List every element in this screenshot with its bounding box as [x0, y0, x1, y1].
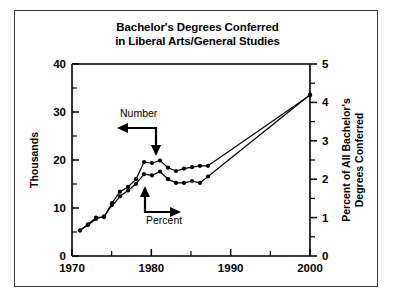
- annotation-number-left-arrow-icon: [117, 123, 128, 133]
- left-tick-label-20: 20: [53, 154, 66, 166]
- annotation-percent-label: Percent: [146, 214, 182, 226]
- x-axis-ticks: [72, 249, 310, 256]
- series-number-markers: [78, 93, 312, 233]
- series-percent-markers: [78, 93, 312, 233]
- x-tick-label-1990: 1990: [218, 262, 244, 274]
- left-tick-label-40: 40: [53, 58, 66, 70]
- annotation-number-down-arrow-icon: [151, 145, 161, 156]
- y-axis-title: Thousands: [28, 132, 40, 188]
- left-tick-label-0: 0: [60, 250, 66, 262]
- right-tick-label-0: 0: [322, 250, 328, 262]
- right-tick-label-2: 2: [322, 173, 328, 185]
- chart-plot-svg: 0 10 20 30 40 0 1 2 3 4 5: [0, 0, 395, 303]
- right-axis-tick-labels: 0 1 2 3 4 5: [322, 58, 329, 262]
- x-tick-label-2000: 2000: [297, 262, 323, 274]
- right-tick-label-1: 1: [322, 212, 329, 224]
- chart-figure: Bachelor's Degrees Conferred in Liberal …: [0, 0, 395, 303]
- left-axis-ticks: [72, 64, 79, 256]
- annotation-number: Number: [117, 107, 161, 156]
- annotation-number-connector: [126, 128, 156, 147]
- y2-axis-title-line-1: Percent of All Bachelor's: [340, 98, 352, 222]
- series-percent-line: [80, 95, 310, 231]
- left-tick-label-10: 10: [53, 202, 66, 214]
- right-tick-label-5: 5: [322, 58, 329, 70]
- annotation-number-label: Number: [120, 107, 158, 119]
- right-tick-label-4: 4: [322, 96, 329, 108]
- series-number-line: [80, 95, 310, 230]
- annotation-percent: Percent: [140, 186, 182, 226]
- x-tick-label-1980: 1980: [139, 262, 165, 274]
- y2-axis-title-line-2: Degrees Conferred: [353, 113, 365, 208]
- x-axis-tick-labels: 1970 1980 1990 2000: [59, 262, 323, 274]
- series-number: [78, 93, 312, 233]
- left-tick-label-30: 30: [53, 106, 66, 118]
- annotation-percent-up-arrow-icon: [140, 186, 150, 197]
- annotation-percent-connector: [145, 195, 172, 212]
- left-axis-tick-labels: 0 10 20 30 40: [53, 58, 66, 262]
- series-percent: [78, 93, 312, 233]
- right-tick-label-3: 3: [322, 135, 328, 147]
- x-tick-label-1970: 1970: [59, 262, 85, 274]
- right-axis-ticks: [310, 64, 317, 256]
